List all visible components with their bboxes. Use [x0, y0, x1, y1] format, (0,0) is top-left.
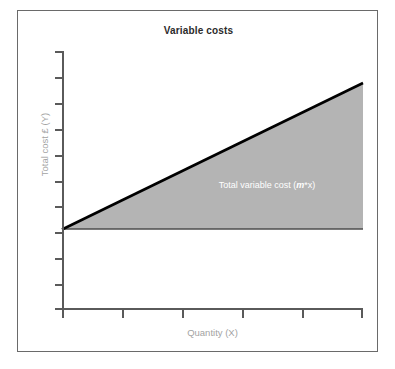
annotation-prefix: Total variable cost (	[219, 180, 297, 190]
y-axis-tick	[55, 129, 63, 131]
y-axis-tick	[55, 155, 63, 157]
y-axis-tick	[55, 232, 63, 234]
x-axis-tick	[62, 310, 64, 318]
plot-area: Total variable cost (m*x)	[62, 51, 363, 310]
y-axis-tick	[55, 51, 63, 53]
y-axis-tick	[55, 103, 63, 105]
chart-title: Variable costs	[18, 25, 379, 36]
y-axis-tick	[55, 77, 63, 79]
series-annotation: Total variable cost (m*x)	[182, 180, 352, 190]
y-axis-tick	[55, 206, 63, 208]
x-axis-tick	[182, 310, 184, 318]
figure-frame: Variable costs Total variable cost (m*x)	[17, 10, 378, 352]
x-axis-tick	[122, 310, 124, 318]
y-axis-tick	[55, 181, 63, 183]
x-axis-tick	[242, 310, 244, 318]
x-axis-tick	[302, 310, 304, 318]
x-axis-tick	[361, 310, 363, 318]
y-axis-tick	[55, 284, 63, 286]
x-axis-line	[62, 308, 363, 310]
y-axis-title: Total cost £ (Y)	[39, 75, 50, 215]
annotation-suffix: )	[312, 180, 315, 190]
x-axis-title: Quantity (X)	[62, 327, 363, 338]
y-axis-tick	[55, 258, 63, 260]
